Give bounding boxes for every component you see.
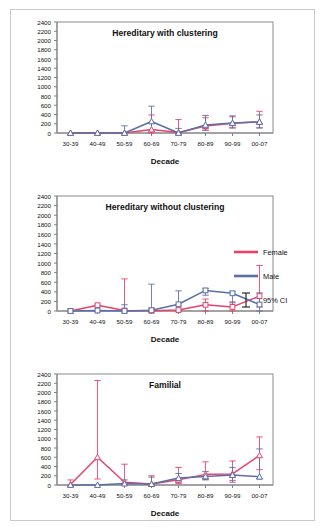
chart-title: Familial (149, 380, 181, 390)
y-axis-tick-label: 1200 (37, 426, 51, 433)
x-axis-tick-label: 40-49 (90, 492, 106, 499)
x-axis-title: Decade (151, 509, 180, 518)
x-axis-tick-label: 40-49 (90, 140, 106, 147)
legend-label: Female (263, 248, 288, 257)
y-axis-tick-label: 2000 (37, 37, 51, 44)
data-point-marker (149, 308, 154, 313)
data-point-marker (95, 454, 101, 459)
plot-area-border (57, 22, 273, 133)
chart-panel-hereditary-with-clustering: 0200400600800100012001400160018002000220… (11, 14, 316, 186)
y-axis-tick-label: 1600 (37, 408, 51, 415)
x-axis-tick-label: 80-89 (198, 140, 214, 147)
y-axis-tick-label: 2200 (37, 202, 51, 209)
data-point-marker (203, 302, 208, 307)
data-point-marker (257, 452, 263, 457)
data-point-marker (95, 303, 100, 308)
x-axis-tick-label: 80-89 (198, 492, 214, 499)
y-axis: 0200400600800100012001400160018002000220… (37, 193, 57, 315)
x-axis-tick-label: 00-07 (252, 140, 268, 147)
data-point-marker (122, 309, 127, 314)
x-axis-tick-label: 70-79 (171, 492, 187, 499)
y-axis-tick-label: 2000 (37, 212, 51, 219)
x-axis-tick-label: 00-07 (252, 318, 268, 325)
y-axis-tick-label: 800 (41, 93, 52, 100)
y-axis-tick-label: 1400 (37, 417, 51, 424)
y-axis-tick-label: 1800 (37, 46, 51, 53)
error-bars-female (67, 380, 262, 485)
y-axis-tick-label: 800 (41, 269, 52, 276)
x-axis-tick-label: 00-07 (252, 492, 268, 499)
data-point-marker (203, 288, 208, 293)
y-axis: 0200400600800100012001400160018002000220… (37, 371, 57, 489)
legend-svg: FemaleMale95% CI (232, 242, 310, 314)
x-axis-tick-label: 30-39 (63, 140, 79, 147)
y-axis-tick-label: 2400 (37, 19, 51, 26)
y-axis-tick-label: 1200 (37, 250, 51, 257)
figure-frame: 0200400600800100012001400160018002000220… (10, 9, 315, 521)
y-axis-tick-label: 400 (41, 288, 52, 295)
y-axis-tick-label: 2400 (37, 193, 51, 200)
legend-item-female: Female (234, 248, 288, 257)
y-axis-tick-label: 1800 (37, 398, 51, 405)
y-axis-tick-label: 1200 (37, 74, 51, 81)
y-axis-tick-label: 800 (41, 445, 52, 452)
y-axis-tick-label: 1000 (37, 83, 51, 90)
y-axis-tick-label: 0 (48, 482, 52, 489)
y-axis-tick-label: 1800 (37, 221, 51, 228)
chart-title: Hereditary without clustering (106, 202, 225, 212)
data-point-marker (95, 308, 100, 313)
y-axis-tick-label: 200 (41, 298, 52, 305)
y-axis-tick-label: 600 (41, 279, 52, 286)
y-axis-tick-label: 600 (41, 102, 52, 109)
x-axis-tick-label: 30-39 (63, 492, 79, 499)
legend-label: 95% CI (263, 296, 287, 305)
legend-label: Male (263, 272, 279, 281)
x-axis-tick-label: 50-59 (117, 318, 133, 325)
y-axis-tick-label: 0 (48, 130, 52, 137)
x-axis-tick-label: 90-99 (225, 318, 241, 325)
legend-errorbar-swatch (242, 293, 250, 307)
chart-svg: 0200400600800100012001400160018002000220… (11, 366, 316, 531)
data-point-marker (176, 308, 181, 313)
y-axis-tick-label: 1600 (37, 56, 51, 63)
x-axis-title: Decade (151, 157, 180, 166)
x-axis-tick-label: 90-99 (225, 140, 241, 147)
x-axis-tick-label: 50-59 (117, 492, 133, 499)
y-axis-tick-label: 2000 (37, 389, 51, 396)
x-axis-tick-label: 70-79 (171, 140, 187, 147)
legend-item-95-ci: 95% CI (242, 293, 287, 307)
x-axis-tick-label: 60-69 (144, 318, 160, 325)
y-axis: 0200400600800100012001400160018002000220… (37, 19, 57, 137)
figure-root: 0200400600800100012001400160018002000220… (0, 0, 327, 531)
x-axis: 30-3940-4950-5960-6970-7980-8990-9900-07 (57, 133, 273, 147)
y-axis-tick-label: 600 (41, 454, 52, 461)
x-axis: 30-3940-4950-5960-6970-7980-8990-9900-07 (57, 485, 273, 499)
y-axis-tick-label: 400 (41, 463, 52, 470)
y-axis-tick-label: 200 (41, 472, 52, 479)
data-point-marker (149, 118, 155, 123)
legend: FemaleMale95% CI (232, 242, 310, 314)
data-point-marker (68, 309, 73, 314)
chart-svg: 0200400600800100012001400160018002000220… (11, 14, 316, 186)
y-axis-tick-label: 2200 (37, 380, 51, 387)
legend-item-male: Male (234, 272, 279, 281)
y-axis-tick-label: 0 (48, 308, 52, 315)
x-axis-tick-label: 40-49 (90, 318, 106, 325)
x-axis-title: Decade (151, 335, 180, 344)
chart-title: Hereditary with clustering (112, 28, 218, 38)
x-axis-tick-label: 30-39 (63, 318, 79, 325)
y-axis-tick-label: 2400 (37, 371, 51, 378)
x-axis-tick-label: 80-89 (198, 318, 214, 325)
x-axis-tick-label: 90-99 (225, 492, 241, 499)
y-axis-tick-label: 1400 (37, 241, 51, 248)
x-axis-tick-label: 60-69 (144, 140, 160, 147)
x-axis-tick-label: 60-69 (144, 492, 160, 499)
y-axis-tick-label: 1000 (37, 435, 51, 442)
y-axis-tick-label: 1600 (37, 231, 51, 238)
chart-panel-familial: 0200400600800100012001400160018002000220… (11, 366, 316, 531)
y-axis-tick-label: 200 (41, 120, 52, 127)
y-axis-tick-label: 1000 (37, 260, 51, 267)
y-axis-tick-label: 1400 (37, 65, 51, 72)
x-axis-tick-label: 50-59 (117, 140, 133, 147)
y-axis-tick-label: 400 (41, 111, 52, 118)
